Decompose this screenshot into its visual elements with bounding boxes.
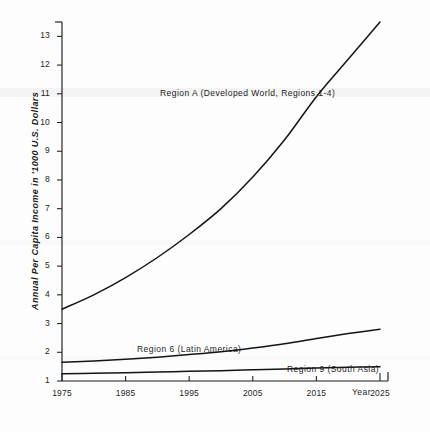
y-tick-label: 3 xyxy=(28,318,50,328)
x-tick-label: 2015 xyxy=(296,388,336,398)
y-axis-title: Annual Per Capita Income in '1000 U.S. D… xyxy=(30,100,40,310)
x-tick-label: 1985 xyxy=(106,388,146,398)
y-tick-label: 13 xyxy=(28,30,50,40)
x-tick-label: 1995 xyxy=(169,388,209,398)
x-tick-label: 1975 xyxy=(42,388,82,398)
y-tick-label: 1 xyxy=(28,375,50,385)
y-axis-ticks xyxy=(57,36,62,381)
y-tick-label: 12 xyxy=(28,59,50,69)
series-label-region-6: Region 6 (Latin America) xyxy=(137,344,241,354)
series-label-region-9: Region 9 (South Asia) xyxy=(287,364,379,374)
axes xyxy=(55,22,388,381)
x-tick-label: 2005 xyxy=(233,388,273,398)
series-line-1 xyxy=(62,22,380,309)
chart-figure: 12345678910111213 1975198519952005201520… xyxy=(0,0,430,432)
y-tick-label: 2 xyxy=(28,346,50,356)
series-label-region-a: Region A (Developed World, Regions 1-4) xyxy=(160,88,335,98)
x-axis-title: Year xyxy=(352,387,371,397)
series-lines xyxy=(62,22,380,374)
x-axis-ticks xyxy=(62,373,380,381)
